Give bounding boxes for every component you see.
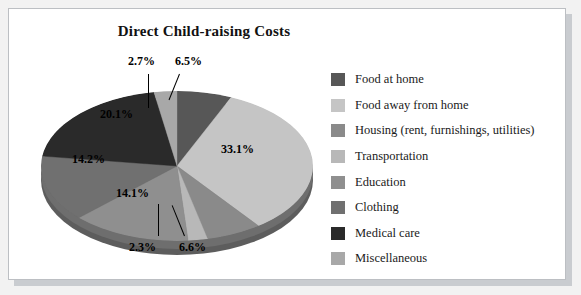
legend-swatch-icon [331, 124, 345, 137]
pie-label-housing: 6.6% [179, 240, 206, 255]
legend-swatch-icon [331, 201, 345, 214]
pie-slice [42, 92, 177, 166]
legend-item-label: Food at home [355, 72, 424, 87]
legend-item-label: Clothing [355, 200, 399, 215]
legend-item: Medical care [331, 221, 563, 247]
legend-item-label: Education [355, 175, 406, 190]
legend-swatch-icon [331, 227, 345, 240]
legend-swatch-icon [331, 73, 345, 86]
pie-label-transport: 14.1% [116, 186, 149, 201]
legend-item: Education [331, 169, 563, 195]
pie-chart: 2.7% 6.5% 33.1% 6.6% 2.3% 14.1% 14.2% 20… [27, 51, 327, 271]
legend-item-label: Housing (rent, furnishings, utilities) [355, 123, 535, 138]
legend-item: Food at home [331, 67, 563, 93]
pie-label-misc: 2.7% [128, 54, 155, 69]
legend-item-label: Transportation [355, 149, 428, 164]
pie-label-food-home: 6.5% [175, 54, 202, 69]
chart-legend: Food at homeFood away from homeHousing (… [331, 67, 563, 272]
legend-swatch-icon [331, 176, 345, 189]
legend-item-label: Medical care [355, 226, 420, 241]
pie-label-medical: 2.3% [129, 240, 156, 255]
pie-label-clothing: 20.1% [100, 107, 133, 122]
chart-title: Direct Child-raising Costs [9, 23, 399, 40]
legend-item: Food away from home [331, 93, 563, 119]
legend-item-label: Food away from home [355, 98, 469, 113]
leader-line-medical [158, 204, 159, 236]
legend-item-label: Miscellaneous [355, 251, 427, 266]
legend-swatch-icon [331, 99, 345, 112]
legend-item: Miscellaneous [331, 246, 563, 272]
pie-label-food-away: 33.1% [221, 142, 254, 157]
legend-swatch-icon [331, 150, 345, 163]
pie-label-education: 14.2% [72, 152, 105, 167]
leader-line-misc [148, 74, 149, 108]
legend-item: Transportation [331, 144, 563, 170]
legend-item: Housing (rent, furnishings, utilities) [331, 118, 563, 144]
legend-swatch-icon [331, 252, 345, 265]
legend-item: Clothing [331, 195, 563, 221]
chart-panel: Direct Child-raising Costs 2.7% 6.5% 33.… [8, 8, 566, 280]
